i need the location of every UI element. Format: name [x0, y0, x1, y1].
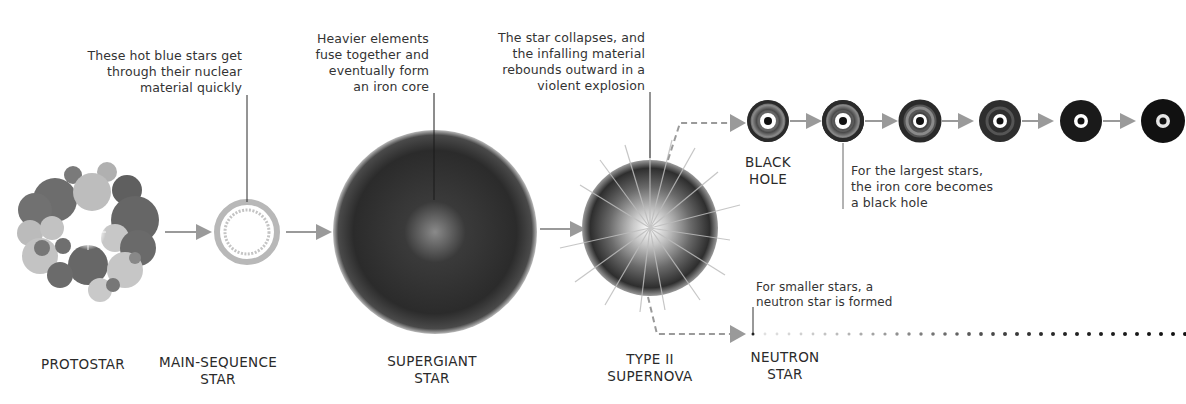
type-ii-supernova-icon	[560, 140, 740, 312]
black-hole-stage-5-icon	[1060, 100, 1102, 142]
arrow-supergiant-to-supernova	[540, 221, 586, 237]
main-sequence-star-icon	[217, 202, 277, 262]
arrow-protostar-to-main-sequence	[165, 224, 212, 240]
arrow-main-sequence-to-supergiant	[286, 224, 332, 240]
annotation-main-sequence: These hot blue stars get through their n…	[62, 48, 242, 96]
label-main-sequence-star: MAIN-SEQUENCE STAR	[148, 354, 288, 388]
black-hole-stage-4-icon	[979, 100, 1021, 142]
black-hole-stage-1-icon	[747, 100, 789, 142]
label-protostar: PROTOSTAR	[28, 356, 138, 373]
arrow-supernova-to-neutron-star	[648, 297, 746, 343]
annotation-supergiant: Heavier elements fuse together and event…	[296, 31, 429, 95]
stellar-evolution-diagram: These hot blue stars get through their n…	[0, 0, 1186, 404]
annotation-neutron-star: For smaller stars, a neutron star is for…	[756, 280, 916, 310]
label-neutron-star: NEUTRON STAR	[740, 349, 830, 383]
black-hole-stage-3-icon	[899, 100, 941, 142]
annotation-black-hole: For the largest stars, the iron core bec…	[851, 163, 1011, 211]
black-hole-sequence	[747, 99, 1185, 143]
black-hole-stage-2-icon	[822, 100, 864, 142]
black-hole-stage-6-icon	[1141, 99, 1185, 143]
label-supergiant-star: SUPERGIANT STAR	[362, 353, 502, 387]
supergiant-star-icon	[333, 130, 537, 334]
annotation-supernova: The star collapses, and the infalling ma…	[470, 30, 645, 94]
label-black-hole: BLACK HOLE	[728, 154, 808, 188]
protostar-icon	[17, 162, 159, 302]
neutron-star-dots	[752, 332, 1186, 336]
label-type-ii-supernova: TYPE II SUPERNOVA	[590, 351, 710, 385]
